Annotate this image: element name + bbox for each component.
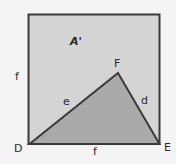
side-label-left-f: f [15, 71, 19, 82]
side-label-bottom-f: f [93, 146, 97, 157]
side-label-e: e [63, 96, 70, 107]
vertex-label-f: F [114, 58, 120, 69]
vertex-label-d: D [14, 143, 22, 154]
area-label: A' [70, 36, 82, 47]
geometry-figure [0, 0, 176, 164]
side-label-d: d [141, 95, 148, 106]
vertex-label-e: E [164, 142, 171, 153]
